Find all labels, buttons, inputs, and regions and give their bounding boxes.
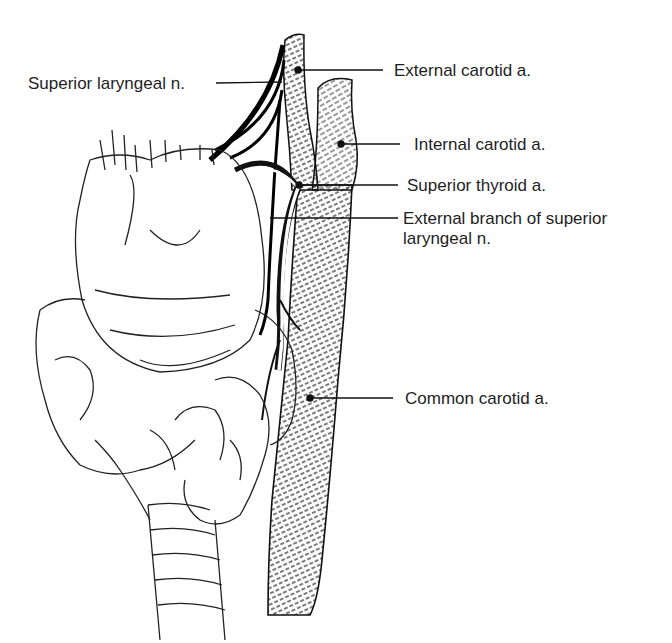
thyroid-cartilage (75, 130, 264, 372)
external-carotid-artery (284, 34, 318, 190)
leader-superior-laryngeal-n (216, 82, 282, 83)
label-superior-laryngeal-n: Superior laryngeal n. (28, 74, 185, 94)
internal-carotid-artery (312, 79, 357, 190)
label-external-branch-superior-laryngeal-n: External branch of superior laryngeal n. (403, 209, 672, 249)
label-external-carotid-a: External carotid a. (394, 61, 531, 81)
label-superior-thyroid-a: Superior thyroid a. (407, 176, 546, 196)
thyroid-gland (36, 299, 296, 524)
anatomy-illustration (0, 0, 672, 643)
superior-laryngeal-nerve (210, 45, 284, 335)
label-internal-carotid-a: Internal carotid a. (414, 135, 545, 155)
label-common-carotid-a: Common carotid a. (405, 389, 549, 409)
